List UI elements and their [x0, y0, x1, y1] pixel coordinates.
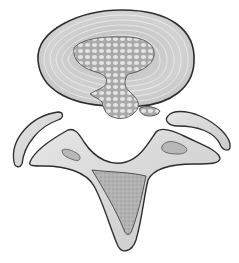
disc-fragment — [140, 107, 160, 116]
disc-illustration — [0, 0, 239, 263]
vertebral-arch — [30, 129, 220, 250]
